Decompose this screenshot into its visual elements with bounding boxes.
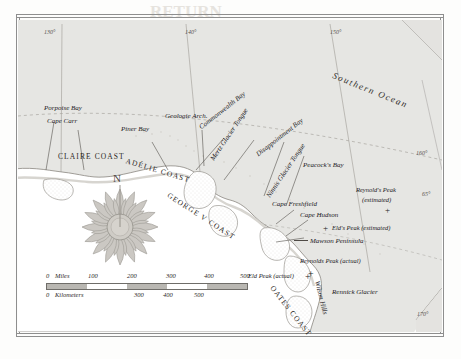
scale-miles-tick-400: 400: [204, 272, 214, 279]
scale-segment: [47, 284, 87, 289]
frame-right: [443, 14, 444, 336]
frame-bottom-outer: [16, 333, 444, 334]
scale-bar-graphic: [46, 283, 248, 290]
frame-top-inner: [16, 17, 444, 18]
scale-bar: 0 Miles 100 200 300 400 500 0 Kilometers…: [46, 272, 248, 301]
scale-km-tick-500: 500: [194, 291, 204, 298]
scale-miles-tick-0: 0: [46, 272, 49, 279]
scale-miles-tick-500: 500: [240, 272, 250, 279]
mawson-peninsula-leader: [294, 240, 308, 241]
frame-left: [16, 14, 17, 336]
map-page: RETURN EXPEDITION WILKES SOUTH the NOTES…: [0, 0, 461, 359]
frame-bottom-inner: [16, 336, 444, 337]
scale-segment: [207, 284, 247, 289]
scale-km-tick-0: 0: [46, 291, 49, 298]
compass-rose: [78, 185, 162, 269]
scale-miles-tick-200: 200: [127, 272, 137, 279]
scale-miles-unit: Miles: [55, 272, 69, 279]
scale-segment: [127, 284, 167, 289]
frame-top-outer: [16, 14, 444, 15]
scale-kilometers-row: 0 Kilometers 300 400 500: [46, 291, 248, 301]
scale-km-tick-400: 400: [163, 291, 173, 298]
scale-miles-row: 0 Miles 100 200 300 400 500: [46, 272, 248, 282]
bleed-text: RETURN: [150, 2, 222, 22]
scale-miles-tick-300: 300: [166, 272, 176, 279]
scale-miles-tick-100: 100: [88, 272, 98, 279]
scale-km-tick-300: 300: [134, 291, 144, 298]
scale-km-unit: Kilometers: [55, 291, 84, 298]
